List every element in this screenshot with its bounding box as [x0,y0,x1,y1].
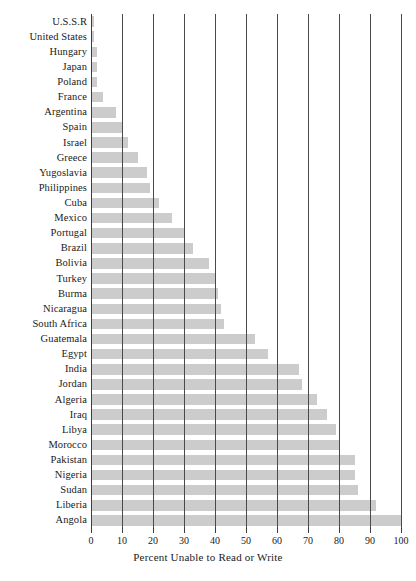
category-label: Hungary [0,46,87,57]
x-tick-label: 80 [334,534,344,547]
x-tick-100 [401,528,402,533]
bar [91,409,327,420]
bar-row [91,304,401,315]
bar-row [91,394,401,405]
bar [91,349,268,360]
category-label: Iraq [0,409,87,420]
x-tick-60 [277,528,278,533]
category-label: Mexico [0,212,87,223]
category-label: Libya [0,424,87,435]
bar-row [91,228,401,239]
bar [91,485,358,496]
bar [91,288,218,299]
category-label: Cuba [0,197,87,208]
x-tick-label: 40 [210,534,220,547]
x-axis-title: Percent Unable to Read or Write [0,550,416,564]
category-label: Greece [0,152,87,163]
bar [91,500,376,511]
x-tick-label: 90 [365,534,375,547]
bar-row [91,107,401,118]
bar [91,334,255,345]
bar-row [91,515,401,526]
x-tick-label: 30 [179,534,189,547]
bar [91,364,299,375]
bar [91,228,184,239]
bar-row [91,273,401,284]
category-label: Poland [0,76,87,87]
plot-area [91,14,401,528]
category-label: Turkey [0,273,87,284]
bar-row [91,183,401,194]
bar-row [91,319,401,330]
bar [91,424,336,435]
bar-row [91,16,401,27]
category-label: Portugal [0,227,87,238]
bar [91,31,94,42]
x-tick-label: 70 [303,534,313,547]
bar-row [91,424,401,435]
category-label: Guatemala [0,333,87,344]
bar [91,319,224,330]
bar-row [91,409,401,420]
x-tick-label: 100 [394,534,409,547]
category-label: Egypt [0,348,87,359]
bar-row [91,152,401,163]
category-label: Pakistan [0,454,87,465]
bar-row [91,167,401,178]
bar-row [91,470,401,481]
category-label: Israel [0,137,87,148]
bar [91,515,401,526]
bar [91,394,317,405]
x-tick-90 [370,528,371,533]
x-tick-40 [215,528,216,533]
category-label: Burma [0,288,87,299]
category-label: United States [0,31,87,42]
x-tick-70 [308,528,309,533]
gridline-100 [401,14,402,528]
x-tick-10 [122,528,123,533]
bar [91,152,138,163]
x-tick-0 [91,528,92,533]
category-label: U.S.S.R [0,16,87,27]
category-label: Yugoslavia [0,167,87,178]
category-label: Nicaragua [0,303,87,314]
category-label: Japan [0,61,87,72]
bar [91,107,116,118]
bar-row [91,137,401,148]
bar [91,92,103,103]
x-tick-label: 50 [241,534,251,547]
bar [91,304,221,315]
bar-row [91,62,401,73]
x-axis-tick-labels: 0102030405060708090100 [0,534,416,548]
bar [91,198,159,209]
bar-row [91,243,401,254]
bar-row [91,334,401,345]
bar-row [91,455,401,466]
category-label: Spain [0,121,87,132]
x-tick-label: 60 [272,534,282,547]
bar-series [91,14,401,528]
x-axis-tick-marks [91,528,401,533]
bar [91,16,94,27]
x-tick-50 [246,528,247,533]
bar [91,62,97,73]
literacy-bar-chart: U.S.S.RUnited StatesHungaryJapanPolandFr… [0,0,416,581]
x-tick-label: 0 [89,534,94,547]
bar [91,258,209,269]
category-label: India [0,363,87,374]
bar-row [91,288,401,299]
bar-row [91,31,401,42]
bar [91,440,339,451]
x-tick-label: 20 [148,534,158,547]
category-axis-labels: U.S.S.RUnited StatesHungaryJapanPolandFr… [0,14,87,528]
category-label: Sudan [0,484,87,495]
bar-row [91,77,401,88]
bar-row [91,485,401,496]
category-label: Argentina [0,106,87,117]
bar [91,137,128,148]
x-tick-30 [184,528,185,533]
bar [91,213,172,224]
bar [91,379,302,390]
bar-row [91,440,401,451]
bar-row [91,349,401,360]
